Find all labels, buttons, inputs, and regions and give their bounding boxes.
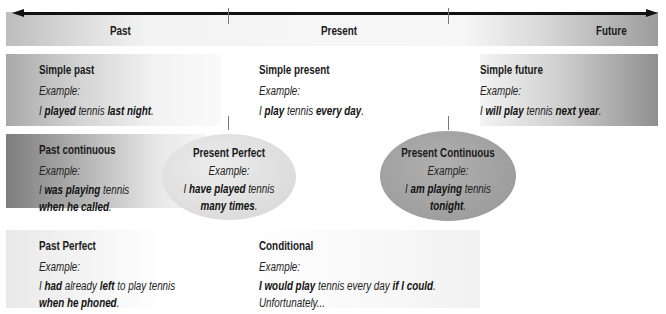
connector-line bbox=[448, 116, 449, 130]
simple-past-title: Simple past bbox=[39, 63, 94, 77]
timeline-arrow-line bbox=[20, 12, 648, 15]
past-perfect-title: Past Perfect bbox=[39, 239, 96, 253]
present-perfect-content: Present Perfect Example: I have played t… bbox=[162, 146, 296, 215]
present-perfect-title: Present Perfect bbox=[174, 146, 284, 160]
simple-future-sentence: I will play tennis next year. bbox=[480, 103, 601, 120]
past-continuous-sentence: I was playing tennis when he called. bbox=[39, 182, 129, 216]
timeline-label-future: Future bbox=[596, 24, 627, 38]
timeline-label-past: Past bbox=[110, 24, 131, 38]
present-continuous-content: Present Continuous Example: I am playing… bbox=[380, 146, 516, 215]
simple-future-example-label: Example: bbox=[480, 84, 521, 98]
arrow-right-icon bbox=[646, 9, 658, 17]
conditional-sentence: I would play tennis every day if I could… bbox=[259, 278, 436, 312]
present-perfect-example-label: Example: bbox=[174, 164, 284, 178]
present-continuous-example-label: Example: bbox=[392, 164, 504, 178]
present-continuous-sentence: I am playing tennis tonight. bbox=[392, 181, 504, 215]
past-perfect-example-label: Example: bbox=[39, 260, 80, 274]
past-continuous-title: Past continuous bbox=[39, 143, 116, 157]
arrow-left-icon bbox=[12, 9, 24, 17]
simple-present-title: Simple present bbox=[259, 63, 330, 77]
past-perfect-sentence: I had already left to play tennis when h… bbox=[39, 278, 175, 312]
conditional-example-label: Example: bbox=[259, 260, 300, 274]
simple-past-sentence: I played tennis last night. bbox=[39, 103, 154, 120]
simple-present-sentence: I play tennis every day. bbox=[259, 103, 364, 120]
simple-past-example-label: Example: bbox=[39, 84, 80, 98]
past-continuous-example-label: Example: bbox=[39, 164, 80, 178]
timeline-divider bbox=[228, 8, 229, 24]
present-perfect-sentence: I have played tennis many times. bbox=[174, 181, 284, 215]
timeline-label-present: Present bbox=[321, 24, 357, 38]
simple-future-title: Simple future bbox=[480, 63, 543, 77]
simple-present-example-label: Example: bbox=[259, 84, 300, 98]
timeline-divider bbox=[448, 8, 449, 24]
conditional-title: Conditional bbox=[259, 239, 313, 253]
present-continuous-title: Present Continuous bbox=[392, 146, 504, 160]
connector-line bbox=[228, 116, 229, 130]
